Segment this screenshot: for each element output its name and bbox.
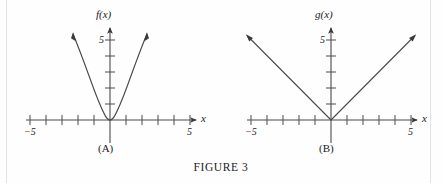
x-tick-label-a-5: 5 xyxy=(187,127,192,137)
panel-a: f(x) x 5 −5 5 (A) xyxy=(0,0,221,160)
y-axis-b xyxy=(326,28,336,143)
figure-caption: FIGURE 3 xyxy=(0,161,442,173)
x-tick-label-b-neg5: −5 xyxy=(245,127,257,137)
panel-b: g(x) x 5 −5 5 (B) xyxy=(221,0,442,160)
x-axis-label-b: x xyxy=(422,113,427,124)
x-axis-b xyxy=(247,115,417,125)
panel-label-a: (A) xyxy=(98,143,113,154)
x-tick-label-b-5: 5 xyxy=(408,127,413,137)
y-axis-label-a: f(x) xyxy=(96,9,111,20)
y-axis-label-b: g(x) xyxy=(315,9,333,20)
figure-3-container: f(x) x 5 −5 5 (A) xyxy=(0,0,442,183)
y-tick-label-a-5: 5 xyxy=(99,35,104,45)
y-axis-a xyxy=(105,28,115,143)
x-tick-label-a-neg5: −5 xyxy=(24,127,36,137)
y-tick-label-b-5: 5 xyxy=(320,35,325,45)
panel-label-b: (B) xyxy=(319,143,334,154)
x-axis-label-a: x xyxy=(201,113,206,124)
